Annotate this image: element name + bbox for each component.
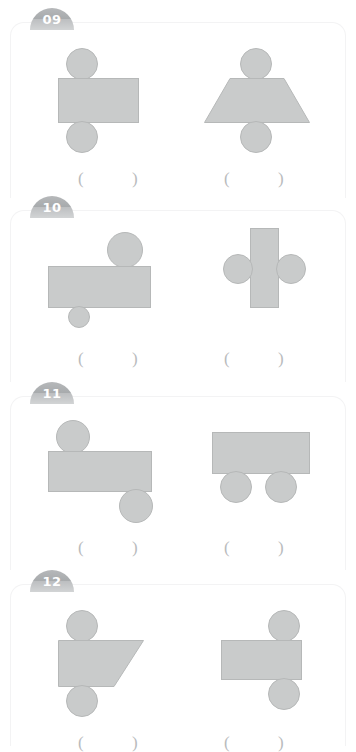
answer-paren-close-right: ) xyxy=(278,539,284,556)
answer-paren-close-left: ) xyxy=(132,170,138,187)
answer-paren-open-right: ( xyxy=(224,734,230,751)
answer-paren-open-right: ( xyxy=(224,350,230,367)
answer-paren-close-left: ) xyxy=(132,350,138,367)
answer-paren-close-right: ) xyxy=(278,734,284,751)
panel-number-label: 12 xyxy=(30,570,74,592)
exercise-panel-12: 12 ( ) ( ) xyxy=(10,570,346,746)
exercise-panel-09: 09 ( ) ( ) xyxy=(10,8,346,198)
answer-paren-close-left: ) xyxy=(132,734,138,751)
answer-paren-open-right: ( xyxy=(224,539,230,556)
panel-number-badge: 11 xyxy=(30,382,74,404)
answer-paren-close-left: ) xyxy=(132,539,138,556)
answer-paren-close-right: ) xyxy=(278,170,284,187)
answer-paren-open-left: ( xyxy=(78,539,84,556)
panel-number-label: 11 xyxy=(30,382,74,404)
answer-paren-open-right: ( xyxy=(224,170,230,187)
answer-row: ( ) ( ) xyxy=(10,396,346,570)
panel-number-label: 10 xyxy=(30,196,74,218)
answer-paren-close-right: ) xyxy=(278,350,284,367)
answer-paren-open-left: ( xyxy=(78,170,84,187)
exercise-panel-11: 11 ( ) ( ) xyxy=(10,382,346,570)
exercise-panel-10: 10 ( ) ( ) xyxy=(10,196,346,382)
panel-number-badge: 09 xyxy=(30,8,74,30)
answer-row: ( ) ( ) xyxy=(10,584,346,746)
answer-row: ( ) ( ) xyxy=(10,22,346,198)
answer-row: ( ) ( ) xyxy=(10,210,346,382)
panel-number-badge: 12 xyxy=(30,570,74,592)
panel-number-label: 09 xyxy=(30,8,74,30)
answer-paren-open-left: ( xyxy=(78,734,84,751)
panel-number-badge: 10 xyxy=(30,196,74,218)
answer-paren-open-left: ( xyxy=(78,350,84,367)
